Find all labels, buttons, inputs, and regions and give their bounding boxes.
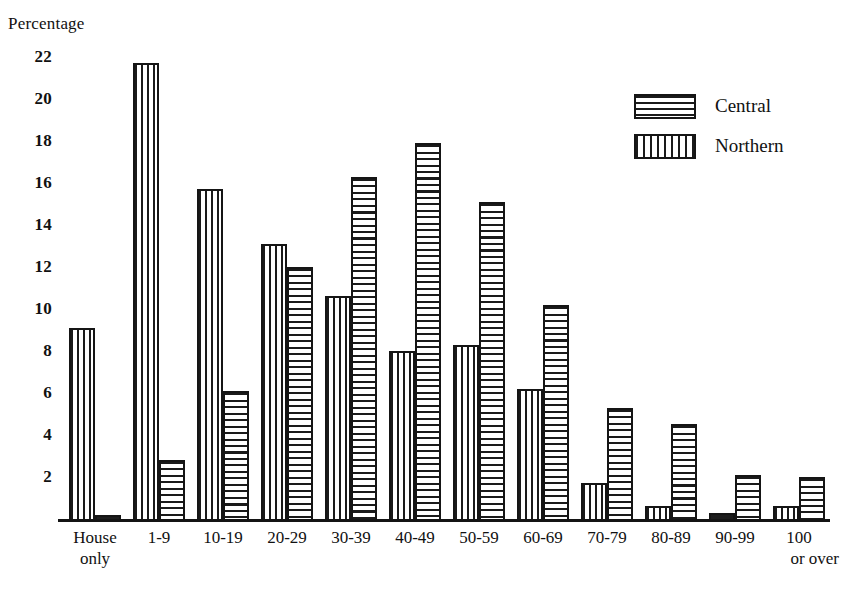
bar-central xyxy=(287,267,313,521)
bar-group xyxy=(773,477,825,521)
bar-group xyxy=(517,305,569,521)
y-tick-label: 4 xyxy=(6,426,52,443)
x-tick-label-line1: 30-39 xyxy=(331,528,371,547)
y-tick-label: 2 xyxy=(6,468,52,485)
x-tick-label: 100or over xyxy=(759,527,839,569)
bar-northern xyxy=(261,244,287,521)
bar-central xyxy=(671,424,697,521)
bar-northern xyxy=(517,389,543,521)
y-tick-label: 12 xyxy=(6,258,52,275)
bar-group xyxy=(325,177,377,521)
x-tick-label-line1: 50-59 xyxy=(459,528,499,547)
legend-label-central: Central xyxy=(715,95,771,117)
bar-central xyxy=(415,143,441,521)
bar-central xyxy=(799,477,825,521)
y-tick-label: 22 xyxy=(6,48,52,65)
x-tick-label-line1: 80-89 xyxy=(651,528,691,547)
bar-central xyxy=(223,391,249,521)
y-tick-label: 10 xyxy=(6,300,52,317)
y-tick-label: 8 xyxy=(6,342,52,359)
legend-item: Central xyxy=(634,86,784,126)
bar-group xyxy=(709,475,761,521)
y-tick-label: 6 xyxy=(6,384,52,401)
bar-group xyxy=(197,189,249,521)
bar-northern xyxy=(197,189,223,521)
bar-group xyxy=(389,143,441,521)
bar-group xyxy=(133,63,185,521)
bar-central xyxy=(479,202,505,521)
bar-northern xyxy=(581,483,607,521)
bar-northern xyxy=(389,351,415,521)
x-tick-label-line1: 90-99 xyxy=(715,528,755,547)
y-tick-label: 16 xyxy=(6,174,52,191)
legend-item: Northern xyxy=(634,126,784,166)
bar-central xyxy=(735,475,761,521)
x-axis-line xyxy=(58,519,830,522)
legend-swatch-central xyxy=(634,94,696,119)
x-tick-label-line1: 60-69 xyxy=(523,528,563,547)
bar-group xyxy=(69,328,121,521)
legend-swatch-northern xyxy=(634,134,696,159)
x-tick-label-line1: House xyxy=(73,528,116,547)
x-tick-label-line2: only xyxy=(55,548,135,569)
bar-group xyxy=(645,424,697,521)
bar-chart: Percentage 246810121416182022 Houseonly1… xyxy=(0,0,844,600)
bar-central xyxy=(351,177,377,521)
bar-group xyxy=(261,244,313,521)
x-tick-label-line1: 1-9 xyxy=(148,528,171,547)
y-tick-label: 20 xyxy=(6,90,52,107)
bar-central xyxy=(159,460,185,521)
x-tick-label-line1: 40-49 xyxy=(395,528,435,547)
chart-legend: CentralNorthern xyxy=(634,86,784,166)
bar-group xyxy=(581,408,633,521)
x-tick-label-line1: 100 xyxy=(786,528,812,547)
bar-northern xyxy=(453,345,479,521)
x-tick-label-line1: 20-29 xyxy=(267,528,307,547)
y-tick-label: 14 xyxy=(6,216,52,233)
bar-northern xyxy=(325,296,351,521)
bar-group xyxy=(453,202,505,521)
bar-northern xyxy=(69,328,95,521)
bar-central xyxy=(607,408,633,521)
legend-label-northern: Northern xyxy=(715,135,784,157)
x-tick-label-line2: or over xyxy=(759,548,839,569)
y-tick-label: 18 xyxy=(6,132,52,149)
bar-northern xyxy=(133,63,159,521)
y-axis-title: Percentage xyxy=(8,14,85,34)
x-tick-label-line1: 70-79 xyxy=(587,528,627,547)
bar-central xyxy=(543,305,569,521)
x-tick-label-line1: 10-19 xyxy=(203,528,243,547)
